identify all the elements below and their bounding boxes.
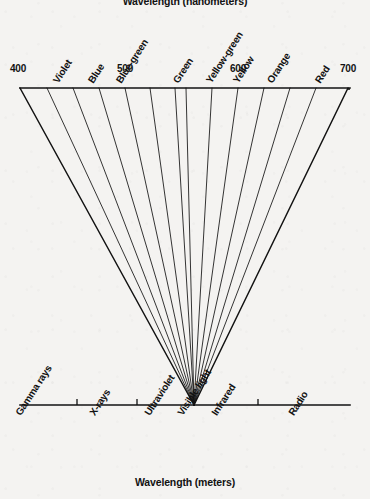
top-axis-title: Wavelength (nanometers) [0, 0, 370, 7]
fan-rays [20, 88, 348, 405]
fan-ray [175, 88, 194, 405]
fan-ray-right-edge [194, 88, 348, 405]
nm-tick-label-700: 700 [340, 64, 356, 74]
fan-ray [194, 88, 290, 405]
fan-ray [194, 88, 212, 405]
fan-ray [73, 88, 194, 405]
spectrum-figure: Wavelength (nanometers) Wavelength (mete… [0, 0, 370, 499]
bottom-axis-title: Wavelength (meters) [0, 477, 370, 488]
nm-tick-label-400: 400 [10, 64, 26, 74]
fan-ray [125, 88, 194, 405]
fan-ray [194, 88, 238, 405]
visible-axis-group [20, 88, 350, 90]
fan-ray [99, 88, 194, 405]
fan-ray [194, 88, 316, 405]
fan-ray-left-edge [20, 88, 194, 405]
fan-ray [194, 88, 264, 405]
